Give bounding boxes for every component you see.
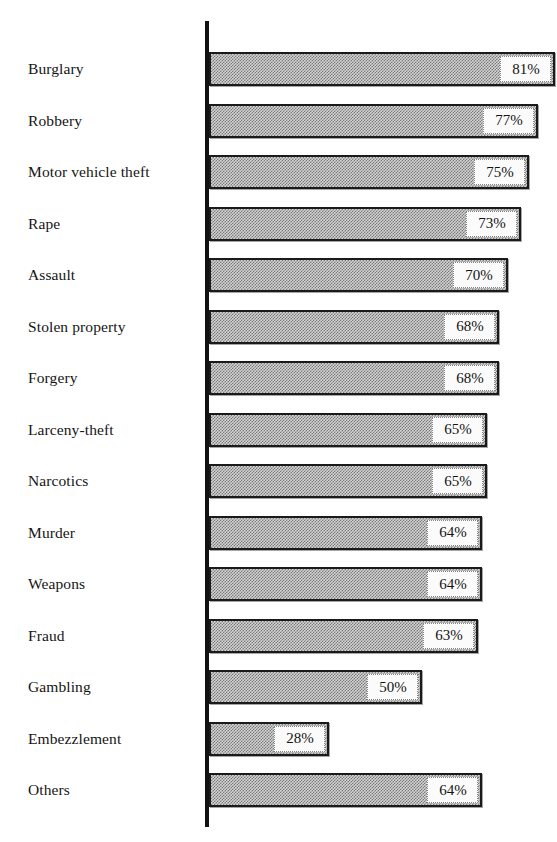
bar-value-label: 73% (466, 211, 517, 237)
bar-value-label: 64% (427, 777, 478, 803)
category-label: Stolen property (28, 310, 126, 344)
category-label: Burglary (28, 52, 84, 86)
bar-chart: Burglary81%Robbery77%Motor vehicle theft… (0, 0, 557, 842)
bar-row: Narcotics65% (0, 464, 557, 498)
bar-row: Weapons64% (0, 567, 557, 601)
bar: 64% (209, 516, 482, 550)
bar: 77% (209, 104, 538, 138)
bar: 63% (209, 619, 478, 653)
bar-row: Others64% (0, 773, 557, 807)
bar-value-label: 77% (483, 108, 534, 134)
bar: 68% (209, 310, 499, 344)
bar-value-label: 65% (432, 468, 483, 494)
bar: 73% (209, 207, 521, 241)
bar-value-label: 75% (474, 159, 525, 185)
bar: 65% (209, 413, 487, 447)
bar-container: 65% (209, 464, 487, 498)
bar-value-label: 50% (367, 674, 418, 700)
bar-value-label: 63% (423, 623, 474, 649)
bar-value-label: 81% (500, 56, 551, 82)
bar-container: 50% (209, 670, 422, 704)
bar: 65% (209, 464, 487, 498)
bar-container: 70% (209, 258, 508, 292)
bar-row: Rape73% (0, 207, 557, 241)
bar-row: Fraud63% (0, 619, 557, 653)
bar-row: Embezzlement28% (0, 722, 557, 756)
bar-row: Robbery77% (0, 104, 557, 138)
category-label: Narcotics (28, 464, 88, 498)
bar-value-label: 65% (432, 417, 483, 443)
bar-rows: Burglary81%Robbery77%Motor vehicle theft… (0, 0, 557, 842)
category-label: Embezzlement (28, 722, 121, 756)
bar-row: Motor vehicle theft75% (0, 155, 557, 189)
category-label: Rape (28, 207, 60, 241)
category-label: Others (28, 773, 70, 807)
bar-row: Assault70% (0, 258, 557, 292)
bar-row: Stolen property68% (0, 310, 557, 344)
category-label: Larceny-theft (28, 413, 114, 447)
bar-container: 77% (209, 104, 538, 138)
bar-row: Larceny-theft65% (0, 413, 557, 447)
category-label: Murder (28, 516, 75, 550)
bar: 70% (209, 258, 508, 292)
category-label: Weapons (28, 567, 85, 601)
bar-container: 68% (209, 310, 499, 344)
bar-value-label: 68% (444, 314, 495, 340)
bar-row: Forgery68% (0, 361, 557, 395)
category-label: Forgery (28, 361, 78, 395)
bar: 50% (209, 670, 422, 704)
bar: 68% (209, 361, 499, 395)
category-label: Fraud (28, 619, 65, 653)
bar: 81% (209, 52, 555, 86)
category-label: Gambling (28, 670, 91, 704)
bar-value-label: 70% (453, 262, 504, 288)
bar-container: 65% (209, 413, 487, 447)
bar-container: 75% (209, 155, 529, 189)
bar-row: Murder64% (0, 516, 557, 550)
bar: 28% (209, 722, 329, 756)
bar-container: 73% (209, 207, 521, 241)
bar-container: 64% (209, 567, 482, 601)
category-label: Assault (28, 258, 75, 292)
bar-container: 68% (209, 361, 499, 395)
bar-container: 64% (209, 773, 482, 807)
bar: 64% (209, 773, 482, 807)
bar-container: 64% (209, 516, 482, 550)
bar-row: Burglary81% (0, 52, 557, 86)
bar: 75% (209, 155, 529, 189)
bar-container: 63% (209, 619, 478, 653)
category-label: Robbery (28, 104, 82, 138)
bar-value-label: 64% (427, 571, 478, 597)
bar-value-label: 28% (274, 726, 325, 752)
bar-container: 81% (209, 52, 555, 86)
category-label: Motor vehicle theft (28, 155, 150, 189)
bar-value-label: 68% (444, 365, 495, 391)
bar: 64% (209, 567, 482, 601)
bar-value-label: 64% (427, 520, 478, 546)
bar-row: Gambling50% (0, 670, 557, 704)
bar-container: 28% (209, 722, 329, 756)
